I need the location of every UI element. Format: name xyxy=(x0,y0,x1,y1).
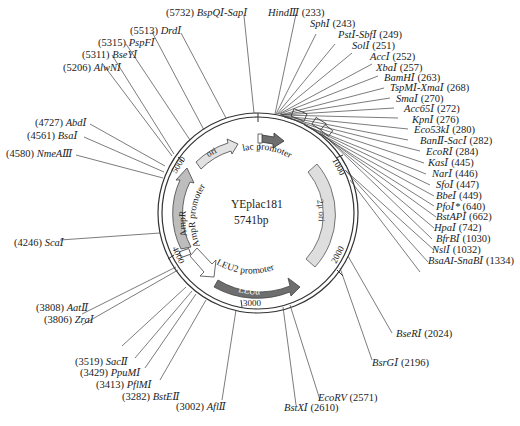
label-leu2-promoter: LEU2 promoter xyxy=(215,257,276,276)
label-2u-ori: 2μ ori xyxy=(315,198,327,222)
site-label: (5732) BspQⅠ-SapⅠ xyxy=(166,7,248,19)
site-label: (3413) PflMⅠ xyxy=(96,379,152,391)
feature-leu2-promoter[interactable] xyxy=(190,248,216,277)
site-label: (3002) AflⅡ xyxy=(176,401,226,413)
site-label: (3806) ZraⅠ xyxy=(44,314,94,326)
tick-label-2000: 2000 xyxy=(329,244,347,265)
tick-label-3000: 3000 xyxy=(243,298,262,308)
label-ampr-promoter: AmpR promoter xyxy=(187,181,208,249)
plasmid-size: 5741bp xyxy=(234,214,269,226)
site-label: (5206) AlwNⅠ xyxy=(63,62,121,74)
site-label: (5513) DrdⅠ xyxy=(130,25,181,37)
site-label: (3282) BstEⅡ xyxy=(122,391,180,403)
site-label: (3429) PpuMⅠ xyxy=(80,367,140,379)
site-label: (4246) ScaⅠ xyxy=(14,237,64,249)
site-label: (5311) BseYⅠ xyxy=(82,49,137,61)
site-label: (4580) NmeAⅢ xyxy=(6,148,72,160)
site-label: (5315) PspFⅠ xyxy=(98,37,155,49)
site-label: BsaAI-SnaBⅠ (1334) xyxy=(428,255,514,267)
label-lac-promoter: lac promoter xyxy=(241,141,294,160)
site-label: (4561) BsaⅠ xyxy=(27,130,78,142)
site-label: BseRⅠ (2024) xyxy=(396,328,452,340)
site-label: (4727) AbdⅠ xyxy=(35,117,87,129)
plasmid-name: YEplac181 xyxy=(231,198,283,210)
site-label: BsrGⅠ (2196) xyxy=(372,357,429,369)
site-label: (3808) AatⅡ xyxy=(36,302,88,314)
site-label: BstXⅠ (2610) xyxy=(284,402,339,414)
